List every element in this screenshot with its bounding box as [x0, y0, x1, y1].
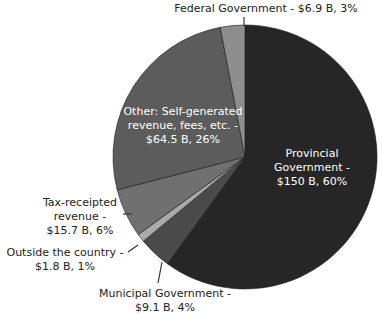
label-municipal-line1: Municipal Government - — [75, 287, 255, 301]
label-provincial: Provincial Government - $150 B, 60% — [262, 147, 362, 189]
label-outside: Outside the country - $1.8 B, 1% — [0, 246, 130, 274]
label-other: Other: Self-generated revenue, fees, etc… — [118, 105, 248, 147]
label-tax-line1: Tax-receipted — [30, 196, 130, 210]
label-provincial-line1: Provincial — [262, 147, 362, 161]
label-other-line1: Other: Self-generated — [118, 105, 248, 119]
label-provincial-line2: Government - — [262, 161, 362, 175]
label-tax-line2: revenue - — [30, 210, 130, 224]
label-municipal-line2: $9.1 B, 4% — [75, 301, 255, 315]
label-provincial-line3: $150 B, 60% — [262, 175, 362, 189]
label-federal: Federal Government - $6.9 B, 3% — [150, 2, 382, 16]
label-outside-line1: Outside the country - — [0, 246, 130, 260]
label-tax-line3: $15.7 B, 6% — [30, 224, 130, 238]
label-tax: Tax-receipted revenue - $15.7 B, 6% — [30, 196, 130, 238]
leader-municipal — [158, 262, 162, 283]
label-outside-line2: $1.8 B, 1% — [0, 260, 130, 274]
label-other-line3: $64.5 B, 26% — [118, 133, 248, 147]
label-municipal: Municipal Government - $9.1 B, 4% — [75, 287, 255, 315]
label-federal-line1: Federal Government - $6.9 B, 3% — [150, 2, 382, 16]
label-other-line2: revenue, fees, etc. - — [118, 119, 248, 133]
